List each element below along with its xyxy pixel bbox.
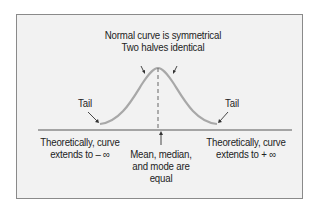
left-tail-arrow bbox=[88, 112, 97, 121]
symmetry-label: Normal curve is symmetrical Two halves i… bbox=[94, 29, 232, 53]
right-extends-label: Theoretically, curve extends to + ∞ bbox=[200, 136, 292, 160]
left-tail-label: Tail bbox=[71, 97, 99, 109]
center-arrowhead-icon bbox=[159, 131, 163, 135]
left-extends-label: Theoretically, curve extends to – ∞ bbox=[34, 136, 126, 160]
left-extends-line-1: Theoretically, curve bbox=[34, 136, 126, 148]
right-tail-arrow bbox=[220, 112, 228, 121]
center-line-1: Mean, median, bbox=[119, 148, 204, 160]
title-line-2: Two halves identical bbox=[94, 41, 232, 53]
left-arrowhead-icon bbox=[142, 70, 145, 74]
left-extends-line-2: extends to – ∞ bbox=[34, 148, 126, 160]
right-extends-line-1: Theoretically, curve bbox=[200, 136, 292, 148]
center-line-3: equal bbox=[119, 172, 204, 184]
center-tendency-label: Mean, median, and mode are equal bbox=[119, 148, 204, 184]
right-extends-line-2: extends to + ∞ bbox=[200, 148, 292, 160]
right-tail-label: Tail bbox=[218, 97, 246, 109]
title-line-1: Normal curve is symmetrical bbox=[94, 29, 232, 41]
right-arrowhead-icon bbox=[173, 70, 176, 74]
center-line-2: and mode are bbox=[119, 160, 204, 172]
